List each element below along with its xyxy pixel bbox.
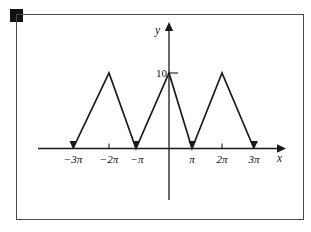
x-tick-label-minus-2pi: −2π <box>94 153 124 165</box>
y-axis-arrow-icon <box>165 22 173 31</box>
y-axis-label: y <box>155 24 160 36</box>
x-tick-label-3pi: 3π <box>241 153 267 165</box>
y-tick-label-10: 10 <box>147 67 167 79</box>
curve-endpoint-arrow-minus-3pi <box>70 141 78 149</box>
curve-endpoint-arrow-pi <box>189 141 197 149</box>
x-tick-label-minus-pi: −π <box>124 153 150 165</box>
x-tick-label-minus-3pi: −3π <box>58 153 88 165</box>
x-axis-label: x <box>277 152 282 164</box>
x-tick-label-pi: π <box>182 153 202 165</box>
triangular-wave-curve <box>73 73 254 149</box>
curve-endpoint-arrow-minus-pi <box>133 141 141 149</box>
x-tick-label-2pi: 2π <box>209 153 235 165</box>
figure-root: y x 10 −3π −2π −π π 2π 3π <box>0 0 311 232</box>
